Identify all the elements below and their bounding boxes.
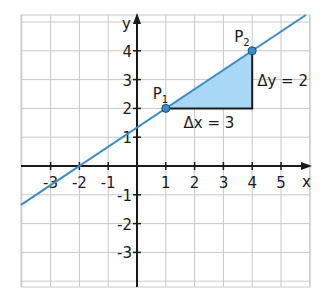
x-tick-label: 3: [219, 174, 229, 192]
y-tick-label: 4: [122, 43, 132, 61]
coordinate-plot: -3-2-112345-3-2-11234xy P1P2Δx = 3Δy = 2: [0, 0, 323, 300]
x-axis-label: x: [302, 173, 311, 191]
axes: [21, 13, 312, 287]
y-tick-label: 3: [122, 72, 132, 90]
y-axis-label: y: [122, 15, 131, 33]
x-tick-label: -2: [72, 174, 87, 192]
point-marker: [248, 47, 256, 55]
y-tick-label: 2: [122, 100, 132, 118]
tick-labels: -3-2-112345-3-2-11234xy: [43, 15, 311, 262]
y-tick-label: -1: [117, 187, 132, 205]
point-label: P2: [234, 28, 249, 48]
delta-x-label: Δx = 3: [184, 114, 235, 132]
point-marker: [162, 104, 170, 112]
y-tick-label: -3: [117, 244, 132, 262]
x-tick-label: 4: [247, 174, 257, 192]
delta-y-label: Δy = 2: [257, 72, 308, 90]
y-tick-label: -2: [117, 216, 132, 234]
grid: [21, 15, 310, 287]
x-tick-label: 1: [161, 174, 171, 192]
x-tick-label: -1: [101, 174, 116, 192]
x-tick-label: 5: [276, 174, 286, 192]
x-tick-label: 2: [190, 174, 200, 192]
